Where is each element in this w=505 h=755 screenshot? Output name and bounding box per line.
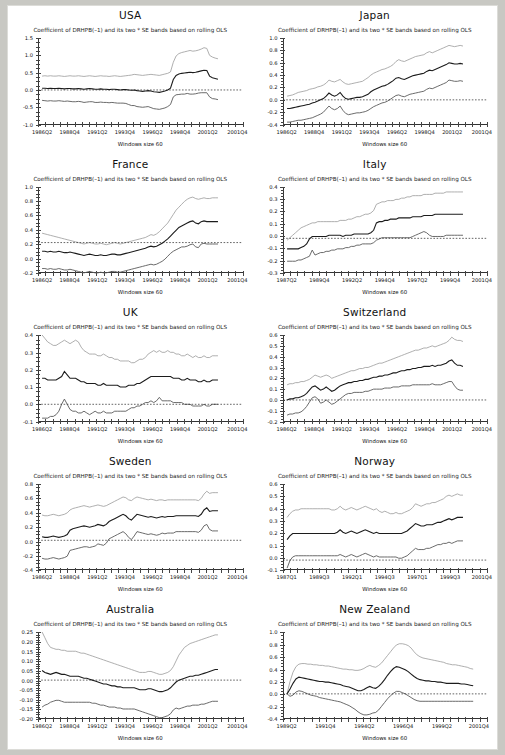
plot-area: -0.4-0.20.00.20.40.60.81986Q21988Q41991Q… — [38, 484, 243, 571]
y-tick-label: 0.1 — [25, 384, 33, 390]
y-tick-label: 0.25 — [21, 629, 33, 635]
x-tick-label: 1991Q2 — [87, 723, 107, 729]
panel-title: Italy — [253, 158, 498, 170]
plot-area: -0.4-0.20.00.20.40.60.81.01986Q21988Q419… — [283, 38, 488, 125]
x-tick-label: 1998Q4 — [170, 574, 190, 580]
y-tick-labels: -0.4-0.20.00.20.40.60.8 — [8, 484, 35, 571]
series-canvas — [38, 187, 243, 274]
panel-title: Sweden — [8, 455, 253, 467]
plot-area: -0.20.00.20.40.60.81.01986Q21988Q41991Q2… — [38, 187, 243, 274]
plot-area: -0.4-0.20.00.20.40.60.81.01989Q21991Q419… — [283, 632, 488, 719]
y-tick-label: 1.0 — [269, 629, 277, 635]
x-tick-label: 1993Q4 — [115, 426, 135, 432]
x-tick-label: 1991Q2 — [332, 426, 352, 432]
panel-title: Japan — [253, 9, 498, 21]
x-tick-label: 1988Q4 — [60, 426, 80, 432]
x-tick-label: 1998Q4 — [170, 723, 190, 729]
series-canvas — [38, 335, 243, 422]
y-tick-label: 0.2 — [269, 84, 277, 90]
y-tick-label: 0.0 — [25, 256, 33, 262]
x-tick-label: 1999Q2 — [432, 723, 452, 729]
y-tick-label: -0.05 — [20, 687, 33, 693]
panel-title: France — [8, 158, 253, 170]
y-tick-label: 1.5 — [25, 35, 33, 41]
x-minor-tick — [487, 122, 488, 127]
coefficient-line — [42, 70, 218, 92]
x-tick-label: 1997Q1 — [407, 574, 427, 580]
y-tick-label: -0.2 — [267, 258, 277, 264]
y-tick-label: 0.6 — [269, 60, 277, 66]
series-canvas — [283, 632, 488, 719]
x-tick-label: 1994Q2 — [354, 723, 374, 729]
x-tick-label: 2001Q4 — [469, 723, 489, 729]
y-tick-label: 0.4 — [269, 667, 277, 673]
y-tick-label: 0.2 — [269, 679, 277, 685]
y-tick-label: 0.0 — [269, 397, 277, 403]
x-tick-label: 1992Q1 — [342, 574, 362, 580]
chart-panel-japan: JapanCoefficient of DRHPB(–1) and its tw… — [253, 6, 498, 155]
lower-band-line — [42, 701, 218, 718]
series-canvas — [38, 484, 243, 571]
y-tick-label: 0.8 — [269, 47, 277, 53]
lower-band-line — [42, 398, 218, 419]
upper-band-line — [287, 494, 463, 518]
x-tick-label: 1988Q4 — [60, 574, 80, 580]
x-tick-label: 1988Q4 — [304, 426, 324, 432]
x-tick-label: 1989Q3 — [309, 574, 329, 580]
y-tick-label: 0.0 — [25, 401, 33, 407]
x-tick-label: 1986Q2 — [276, 426, 296, 432]
y-tick-label: -0.4 — [267, 716, 277, 722]
y-tick-label: 0.0 — [25, 87, 33, 93]
y-tick-label: 0.3 — [269, 365, 277, 371]
panel-subtitle: Coefficient of DRHPB(–1) and its two * S… — [253, 27, 498, 33]
upper-band-line — [42, 632, 218, 674]
chart-panel-uk: UKCoefficient of DRHPB(–1) and its two *… — [8, 303, 253, 452]
x-axis-caption: Windows size 60 — [38, 438, 243, 444]
y-tick-label: 0.8 — [269, 642, 277, 648]
y-tick-label: -0.2 — [23, 270, 33, 276]
x-axis-caption: Windows size 60 — [38, 735, 243, 741]
x-tick-label: 2001Q2 — [198, 426, 218, 432]
x-tick-label: 1996Q2 — [142, 426, 162, 432]
upper-band-line — [287, 644, 473, 694]
y-tick-label: 0.00 — [21, 678, 33, 684]
y-tick-label: 0.6 — [269, 481, 277, 487]
x-tick-label: 1994Q4 — [375, 277, 395, 283]
panel-subtitle: Coefficient of DRHPB(–1) and its two * S… — [8, 324, 253, 330]
x-tick-label: 1993Q4 — [115, 723, 135, 729]
y-tick-label: 0.5 — [25, 70, 33, 76]
y-tick-label: 0.4 — [269, 184, 277, 190]
x-tick-label: 1999Q3 — [440, 574, 460, 580]
panel-title: Norway — [253, 455, 498, 467]
plot-area: -1.0-0.50.00.51.01.51986Q21988Q41991Q219… — [38, 38, 243, 125]
chart-panel-italy: ItalyCoefficient of DRHPB(–1) and its tw… — [253, 155, 498, 304]
panel-subtitle: Coefficient of DRHPB(–1) and its two * S… — [253, 621, 498, 627]
series-canvas — [38, 38, 243, 125]
y-tick-label: -0.2 — [23, 553, 33, 559]
panel-title: USA — [8, 9, 253, 21]
y-tick-labels: -0.4-0.20.00.20.40.60.81.0 — [253, 632, 280, 719]
x-tick-label: 1991Q2 — [332, 129, 352, 135]
x-tick-label: 2001Q2 — [442, 129, 462, 135]
panel-subtitle: Coefficient of DRHPB(–1) and its two * S… — [253, 176, 498, 182]
y-tick-label: 0.0 — [269, 691, 277, 697]
x-axis-caption: Windows size 60 — [38, 289, 243, 295]
chart-panel-new-zealand: New ZealandCoefficient of DRHPB(–1) and … — [253, 600, 498, 749]
y-tick-label: 0.2 — [25, 367, 33, 373]
x-tick-label: 2001Q2 — [442, 426, 462, 432]
coefficient-line — [42, 508, 218, 538]
lower-band-line — [287, 541, 463, 568]
y-tick-labels: -1.0-0.50.00.51.01.5 — [8, 38, 35, 125]
lower-band-line — [42, 524, 218, 559]
panel-subtitle: Coefficient of DRHPB(–1) and its two * S… — [8, 176, 253, 182]
lower-band-line — [287, 691, 473, 715]
x-tick-label: 1998Q4 — [415, 129, 435, 135]
coefficient-line — [287, 63, 463, 109]
x-tick-label: 1993Q4 — [115, 277, 135, 283]
coefficient-line — [42, 670, 218, 692]
chart-panel-norway: NorwayCoefficient of DRHPB(–1) and its t… — [253, 452, 498, 601]
y-tick-label: 0.4 — [25, 332, 33, 338]
plot-area: -0.20-0.15-0.10-0.050.000.050.100.150.20… — [38, 632, 243, 719]
x-minor-tick — [487, 717, 488, 722]
y-tick-label: 0.5 — [269, 343, 277, 349]
